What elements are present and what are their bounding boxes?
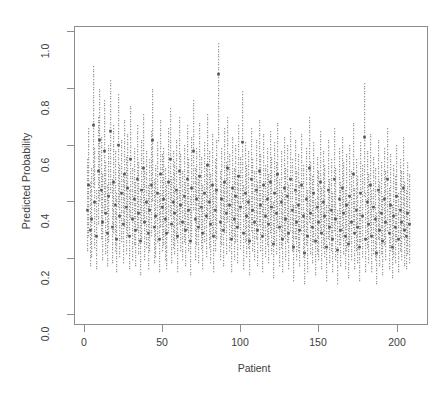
x-tick-4: [397, 325, 398, 332]
y-tick-0: [67, 314, 74, 315]
x-tick-2: [240, 325, 241, 332]
y-tick-1: [67, 258, 74, 259]
x-tick-label-1: 50: [142, 336, 182, 348]
y-axis-label: Predicted Probability: [20, 111, 32, 251]
plot-area: [74, 26, 428, 325]
predicted-probability-scatter-canvas: [75, 27, 427, 324]
y-tick-label-4: 0.8: [39, 88, 51, 128]
y-tick-label-1: 0.2: [39, 258, 51, 298]
x-tick-label-0: 0: [64, 336, 104, 348]
x-tick-label-2: 100: [220, 336, 260, 348]
x-tick-1: [162, 325, 163, 332]
x-tick-3: [318, 325, 319, 332]
y-tick-label-3: 0.6: [39, 145, 51, 185]
x-tick-label-3: 150: [298, 336, 338, 348]
y-tick-label-5: 1.0: [39, 31, 51, 71]
y-tick-label-2: 0.4: [39, 201, 51, 241]
y-tick-4: [67, 88, 74, 89]
y-tick-5: [67, 31, 74, 32]
y-tick-label-0: 0.0: [39, 314, 51, 354]
chart-figure: 0.0 0.2 0.4 0.6 0.8 1.0 0 50 100 150 200…: [0, 0, 448, 394]
y-tick-2: [67, 201, 74, 202]
y-tick-3: [67, 145, 74, 146]
x-tick-label-4: 200: [377, 336, 417, 348]
x-axis-label: Patient: [154, 362, 354, 374]
x-tick-0: [84, 325, 85, 332]
